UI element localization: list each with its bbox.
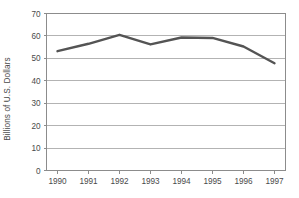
y-axis-tick-label: 40 xyxy=(31,77,41,86)
plot-border xyxy=(47,14,286,171)
data-series-line xyxy=(58,35,275,63)
x-axis-tick-label: 1992 xyxy=(110,177,129,186)
x-axis-tick-label: 1990 xyxy=(48,177,67,186)
axis-frame xyxy=(47,14,286,171)
x-axis-tick-label: 1996 xyxy=(234,177,253,186)
y-axis-tick-label: 50 xyxy=(31,54,41,63)
y-axis-tick-label: 60 xyxy=(31,32,41,41)
chart-canvas: 010203040506070 199019911992199319941995… xyxy=(0,0,299,198)
y-axis-ticks-group: 010203040506070 xyxy=(31,10,46,176)
gridlines-group xyxy=(47,14,286,149)
y-axis-tick-label: 0 xyxy=(36,167,41,176)
x-axis-tick-label: 1994 xyxy=(172,177,191,186)
y-axis-tick-label: 10 xyxy=(31,144,41,153)
line-chart: Billions of U.S. Dollars 010203040506070… xyxy=(0,0,299,198)
x-axis-tick-label: 1997 xyxy=(265,177,284,186)
y-axis-tick-label: 20 xyxy=(31,122,41,131)
x-axis-tick-label: 1993 xyxy=(141,177,160,186)
series-line-billions-of-us-dollars xyxy=(58,35,275,63)
x-axis-tick-label: 1995 xyxy=(203,177,222,186)
x-axis-tick-label: 1991 xyxy=(79,177,98,186)
y-axis-tick-label: 30 xyxy=(31,99,41,108)
x-axis-ticks-group: 19901991199219931994199519961997 xyxy=(48,171,284,186)
y-axis-tick-label: 70 xyxy=(31,10,41,19)
